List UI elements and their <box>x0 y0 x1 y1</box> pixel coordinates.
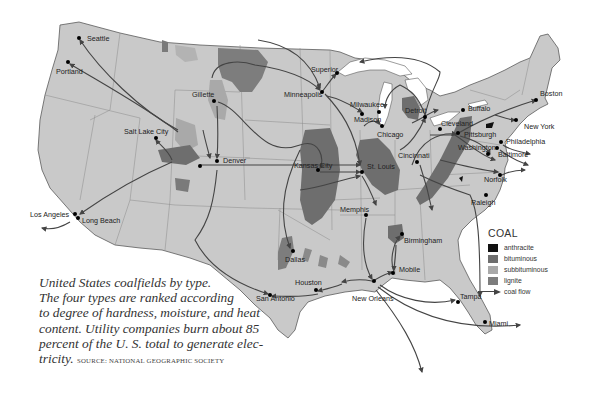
city-label: Boston <box>540 89 562 98</box>
legend-label: bituminous <box>504 255 537 262</box>
city-dot-pittsburgh <box>456 131 460 135</box>
city-label: Cleveland <box>441 119 473 128</box>
city-dot-seattle <box>77 36 81 40</box>
legend-item-lignite: lignite <box>488 275 588 286</box>
city-dot-miami <box>483 320 487 324</box>
city-dot-new-orleans <box>372 279 376 283</box>
city-dot-mobile <box>391 271 395 275</box>
caption-line: The four types are ranked according <box>39 290 289 305</box>
caption-source: SOURCE: NATIONAL GEOGRAPHIC SOCIETY <box>77 357 224 364</box>
city-label: Washington <box>458 143 496 152</box>
city-label: Birmingham <box>404 236 442 245</box>
subbituminous-swatch-icon <box>488 266 498 274</box>
legend-item-coal-flow: coal flow <box>488 286 588 297</box>
city-label: Salt Lake City <box>124 127 169 136</box>
city-dot-salt-lake-city <box>154 136 158 140</box>
anthracite-swatch-icon <box>488 244 498 252</box>
city-dot-houston <box>314 288 318 292</box>
legend-label: lignite <box>504 277 522 284</box>
bituminous-swatch-icon <box>488 255 498 263</box>
city-label: Cincinnati <box>398 151 430 160</box>
city-dot-boston <box>534 98 538 102</box>
city-label: Kansas City <box>294 161 333 170</box>
city-label: Denver <box>223 156 247 165</box>
city-label: Baltimore <box>498 150 528 159</box>
city-label: Houston <box>295 278 322 287</box>
lignite-swatch-icon <box>488 277 498 285</box>
city-label: Buffalo <box>468 104 490 113</box>
city-label: New Orleans <box>352 294 394 303</box>
bituminous-field-wyoming <box>162 40 168 52</box>
legend-title: COAL <box>488 227 588 239</box>
city-label: Seattle <box>87 34 109 43</box>
city-label: Memphis <box>340 205 370 214</box>
city-label: Detroit <box>405 106 426 115</box>
city-label: Portland <box>56 67 83 76</box>
city-dot-philadelphia <box>499 140 503 144</box>
city-label: Mobile <box>399 265 420 274</box>
map-legend: COAL anthracite bituminous subbituminous… <box>488 227 588 297</box>
city-dot-denver <box>215 159 219 163</box>
city-label: New York <box>524 122 555 131</box>
map-caption: United States coalfields by type. The fo… <box>39 275 289 368</box>
legend-item-bituminous: bituminous <box>488 253 588 264</box>
caption-line: to degree of hardness, moisture, and hea… <box>39 305 289 320</box>
city-dot-detroit <box>423 115 427 119</box>
city-dot-raleigh <box>484 193 488 197</box>
city-label: Long Beach <box>82 216 120 225</box>
city-label: Miami <box>489 319 509 328</box>
city-label: Madison <box>354 115 381 124</box>
city-dot-st-louis <box>360 170 364 174</box>
city-label: Minneapolis <box>284 90 323 99</box>
city-label: Raleigh <box>471 198 495 207</box>
city-dot-baltimore <box>486 152 490 156</box>
city-label: Chicago <box>377 130 403 139</box>
legend-label: subbituminous <box>504 266 548 273</box>
legend-item-anthracite: anthracite <box>488 242 588 253</box>
caption-line: content. Utility companies burn about 85 <box>39 321 289 336</box>
city-dot-buffalo <box>461 108 465 112</box>
city-dot-grand-junction <box>198 164 202 168</box>
city-dot-milwaukee <box>377 110 381 114</box>
caption-line: tricity. <box>39 351 74 366</box>
city-label: Norfolk <box>484 175 507 184</box>
city-dot-long-beach <box>76 216 80 220</box>
city-label: Superior <box>311 65 339 74</box>
city-dot-portland <box>66 60 70 64</box>
legend-item-subbituminous: subbituminous <box>488 264 588 275</box>
city-dot-new-york <box>514 118 518 122</box>
caption-line: percent of the U. S. total to generate e… <box>39 336 289 351</box>
caption-line: United States coalfields by type. <box>39 275 289 290</box>
legend-label: anthracite <box>504 244 534 251</box>
city-label: Los Angeles <box>30 210 70 219</box>
city-dot-cincinnati <box>415 160 419 164</box>
city-dot-chicago <box>380 124 384 128</box>
city-label: St. Louis <box>367 162 395 171</box>
city-label: Pittsburgh <box>464 130 496 139</box>
city-label: Milwaukee <box>350 100 384 109</box>
city-label: Gillette <box>192 90 214 99</box>
legend-label: coal flow <box>504 288 530 295</box>
city-dot-los-angeles <box>73 212 77 216</box>
bituminous-field-new-mexico <box>175 178 190 192</box>
city-dot-dallas <box>291 249 295 253</box>
city-label: Dallas <box>285 255 305 264</box>
city-dot-gillette <box>212 99 216 103</box>
coal-flow-arrow-icon <box>478 288 502 296</box>
city-label: Philadelphia <box>506 137 545 146</box>
